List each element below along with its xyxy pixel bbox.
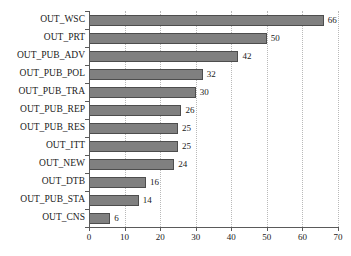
x-axis-tick: [160, 227, 161, 231]
x-axis-tick-label: 60: [298, 233, 307, 242]
x-axis-tick: [231, 227, 232, 231]
category-label: OUT_PUB_TRA: [0, 87, 85, 97]
category-label: OUT_WSC: [0, 15, 85, 25]
x-axis-tick: [196, 227, 197, 231]
x-axis-tick-label: 50: [262, 233, 271, 242]
x-axis-tick-label: 0: [87, 233, 92, 242]
y-axis-category-labels: OUT_WSCOUT_PRTOUT_PUB_ADVOUT_PUB_POLOUT_…: [0, 11, 351, 227]
category-label: OUT_PUB_ADV: [0, 51, 85, 61]
category-label: OUT_PUB_RES: [0, 123, 85, 133]
category-label: OUT_PUB_REP: [0, 105, 85, 115]
x-axis-tick: [302, 227, 303, 231]
x-axis-tick: [338, 227, 339, 231]
category-label: OUT_PRT: [0, 33, 85, 43]
x-axis-tick-label: 40: [227, 233, 236, 242]
x-axis-tick: [89, 227, 90, 231]
category-label: OUT_NEW: [0, 159, 85, 169]
category-label: OUT_DTB: [0, 177, 85, 187]
x-axis-tick-label: 10: [120, 233, 129, 242]
category-label: OUT_PUB_POL: [0, 69, 85, 79]
x-axis-tick-label: 70: [334, 233, 343, 242]
x-axis-tick: [125, 227, 126, 231]
x-axis-tick-label: 30: [191, 233, 200, 242]
category-label: OUT_CNS: [0, 213, 85, 223]
category-label: OUT_ITT: [0, 141, 85, 151]
category-label: OUT_PUB_STA: [0, 195, 85, 205]
x-axis-tick-label: 20: [156, 233, 165, 242]
bar-chart: 66504232302625252416146 OUT_WSCOUT_PRTOU…: [0, 0, 351, 256]
x-axis-tick: [267, 227, 268, 231]
